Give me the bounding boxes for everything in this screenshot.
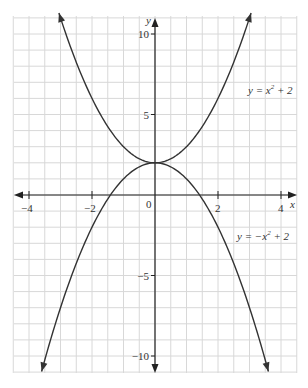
svg-text:−10: −10 (132, 350, 150, 362)
x-axis-label: x (289, 198, 295, 210)
svg-text:2: 2 (215, 202, 221, 214)
svg-text:4: 4 (278, 202, 284, 214)
svg-text:5: 5 (144, 109, 150, 121)
chart: −4−2024105−5−10 x y y = x2 + 2 y = −x2 +… (0, 0, 308, 388)
svg-text:0: 0 (146, 198, 152, 210)
svg-text:−5: −5 (137, 270, 149, 282)
equation-label-upper: y = x2 + 2 (247, 83, 293, 96)
y-axis-label: y (145, 14, 151, 26)
svg-text:−2: −2 (84, 202, 96, 214)
svg-text:10: 10 (138, 28, 150, 40)
svg-text:−4: −4 (21, 202, 33, 214)
equation-label-lower: y = −x2 + 2 (236, 229, 290, 242)
